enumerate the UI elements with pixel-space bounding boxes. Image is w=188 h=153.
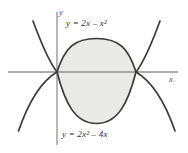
figure-container: y = 2x – x² y = 2x² – 4x y x bbox=[0, 0, 188, 153]
y-axis-label: y bbox=[59, 8, 63, 17]
upper-curve-equation-label: y = 2x – x² bbox=[66, 19, 107, 28]
x-axis-label: x bbox=[169, 75, 173, 84]
lower-curve-equation-label: y = 2x² – 4x bbox=[62, 130, 108, 139]
shaded-region bbox=[57, 39, 136, 124]
